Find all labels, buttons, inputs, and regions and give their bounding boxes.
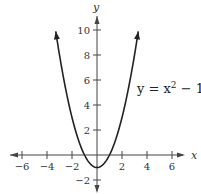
x-axis-right-arrow-icon [177,153,185,158]
y-tick-label: 6 [84,75,90,86]
x-tick-label: 6 [169,161,175,172]
curve-arrow-icon [54,31,60,39]
y-axis-label: y [92,1,100,14]
y-tick-label: −2 [75,175,90,186]
equation-label: y = x2 − 1 [136,80,201,96]
x-tick-label: −6 [15,161,30,172]
x-tick-label: 2 [119,161,125,172]
y-tick-label: 8 [84,50,90,61]
y-axis-up-arrow-icon [95,16,100,24]
y-tick-label: 10 [77,25,90,36]
x-tick-label: −2 [65,161,80,172]
curve-arrow-icon [134,31,140,39]
parabola-chart: −6−4−2246−2246810 x y y = x2 − 1 [0,0,201,194]
y-axis-down-arrow-icon [95,185,100,193]
ticks: −6−4−2246−2246810 [15,25,176,186]
x-axis-left-arrow-icon [10,153,18,158]
y-tick-label: 2 [84,125,90,136]
x-tick-label: −4 [40,161,55,172]
y-tick-label: 4 [84,100,90,111]
x-tick-label: 4 [144,161,150,172]
x-axis-label: x [191,149,198,162]
